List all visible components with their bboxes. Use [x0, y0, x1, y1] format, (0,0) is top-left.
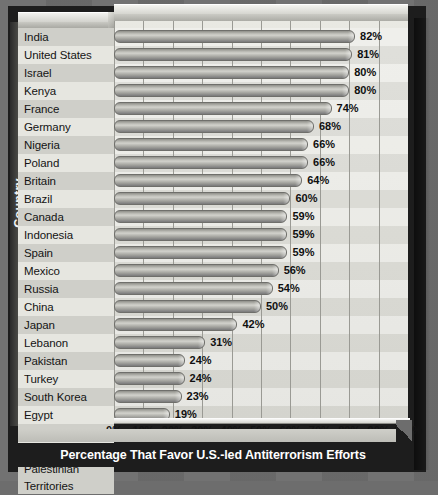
bar	[114, 192, 290, 205]
bar	[114, 228, 287, 241]
bar-value-label: 59%	[292, 210, 314, 223]
bar-value-label: 23%	[187, 390, 209, 403]
plot-area: 82%81%80%80%74%68%66%66%64%60%59%59%59%5…	[114, 21, 408, 418]
bar-value-label: 24%	[190, 372, 212, 385]
bar-value-label: 68%	[319, 120, 341, 133]
category-label: Canada	[18, 208, 114, 226]
category-label: Egypt	[18, 406, 114, 424]
chart-title: Percentage That Favor U.S.-led Antiterro…	[60, 448, 366, 462]
category-label: Spain	[18, 244, 114, 262]
bar	[114, 30, 355, 43]
category-label: Brazil	[18, 190, 114, 208]
category-label: Kenya	[18, 82, 114, 100]
bar-value-label: 66%	[313, 138, 335, 151]
bar	[114, 156, 308, 169]
bar-value-label: 60%	[295, 192, 317, 205]
bar	[114, 318, 237, 331]
bar-value-label: 50%	[266, 300, 288, 313]
category-label: United States	[18, 46, 114, 64]
bar	[114, 336, 205, 349]
bar-series: 82%81%80%80%74%68%66%66%64%60%59%59%59%5…	[114, 21, 408, 418]
bar	[114, 390, 182, 403]
bar-value-label: 81%	[357, 48, 379, 61]
bar-value-label: 74%	[337, 102, 359, 115]
bar	[114, 48, 352, 61]
category-label: Mexico	[18, 262, 114, 280]
bar	[114, 282, 273, 295]
chart-title-bar: Percentage That Favor U.S.-led Antiterro…	[18, 443, 408, 467]
bar-value-label: 19%	[175, 408, 197, 418]
bar	[114, 354, 185, 367]
bar-value-label: 80%	[354, 84, 376, 97]
bar-value-label: 64%	[307, 174, 329, 187]
panel-bottom-strip	[18, 429, 408, 442]
category-label: Japan	[18, 316, 114, 334]
bar	[114, 246, 287, 259]
bar	[114, 408, 170, 418]
category-label: Germany	[18, 118, 114, 136]
category-label: Russia	[18, 280, 114, 298]
bar	[114, 300, 261, 313]
bar	[114, 102, 332, 115]
category-label: Pakistan	[18, 352, 114, 370]
panel-shadow	[414, 18, 430, 470]
bevel-right-face	[114, 14, 408, 21]
bar-value-label: 59%	[292, 228, 314, 241]
category-label: Poland	[18, 154, 114, 172]
category-label-column: IndiaUnited StatesIsraelKenyaFranceGerma…	[18, 28, 114, 426]
bar	[114, 66, 349, 79]
bar	[114, 138, 308, 151]
category-label: Lebanon	[18, 334, 114, 352]
bar-value-label: 54%	[278, 282, 300, 295]
bar	[114, 264, 279, 277]
bar-value-label: 56%	[284, 264, 306, 277]
bar-value-label: 42%	[242, 318, 264, 331]
bar-value-label: 80%	[354, 66, 376, 79]
bar-value-label: 66%	[313, 156, 335, 169]
bar	[114, 120, 314, 133]
bar	[114, 84, 349, 97]
category-label: France	[18, 100, 114, 118]
category-label-line: Territories	[24, 478, 73, 495]
category-label: Israel	[18, 64, 114, 82]
category-label: Turkey	[18, 370, 114, 388]
bar	[114, 210, 287, 223]
category-label: Britain	[18, 172, 114, 190]
category-label: Nigeria	[18, 136, 114, 154]
bar	[114, 174, 302, 187]
category-label: South Korea	[18, 388, 114, 406]
category-label: India	[18, 28, 114, 46]
category-label: China	[18, 298, 114, 316]
bar	[114, 372, 185, 385]
bar-value-label: 82%	[360, 30, 382, 43]
bar-value-label: 24%	[190, 354, 212, 367]
bar-value-label: 31%	[210, 336, 232, 349]
bar-value-label: 59%	[292, 246, 314, 259]
category-label: Indonesia	[18, 226, 114, 244]
